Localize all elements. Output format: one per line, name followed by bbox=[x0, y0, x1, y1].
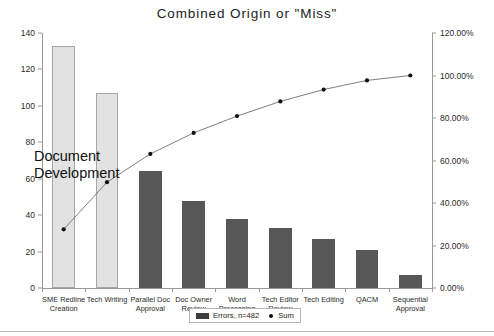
legend-item-sum: Sum bbox=[268, 311, 294, 320]
document-development-annotation: Document Development bbox=[34, 148, 119, 182]
x-axis-tick-mark bbox=[345, 288, 346, 292]
legend-label-sum: Sum bbox=[278, 311, 294, 320]
chart-legend: Errors, n=482 Sum bbox=[189, 308, 301, 323]
y-axis-right-tick-mark bbox=[432, 33, 436, 34]
y-axis-right-tick-mark bbox=[432, 203, 436, 204]
x-axis-line bbox=[42, 288, 433, 289]
data-point-marker bbox=[322, 87, 326, 91]
data-point-marker bbox=[62, 227, 66, 231]
annotation-line-2: Development bbox=[34, 165, 119, 182]
data-point-marker bbox=[192, 131, 196, 135]
y-axis-right-tick-mark bbox=[432, 118, 436, 119]
bar-swatch-icon bbox=[196, 313, 209, 319]
y-axis-right-tick-label: 20.00% bbox=[432, 241, 469, 251]
x-axis-tick-mark bbox=[172, 288, 173, 292]
y-axis-right-tick-label: 0.00% bbox=[432, 283, 464, 293]
x-axis-tick-mark bbox=[389, 288, 390, 292]
y-axis-right-tick-mark bbox=[432, 160, 436, 161]
bottom-divider bbox=[0, 331, 494, 332]
x-axis-tick-mark bbox=[432, 288, 433, 292]
y-axis-right-tick-label: 80.00% bbox=[432, 113, 469, 123]
y-axis-right-tick-mark bbox=[432, 245, 436, 246]
data-point-marker bbox=[235, 114, 239, 118]
x-axis-category-label: Sequential Approval bbox=[385, 295, 436, 313]
x-axis-tick-mark bbox=[129, 288, 130, 292]
data-point-marker bbox=[278, 99, 282, 103]
y-axis-right-tick-label: 100.00% bbox=[432, 71, 474, 81]
pareto-chart: Combined Origin or "Miss" 02040608010012… bbox=[0, 0, 494, 336]
data-point-marker bbox=[148, 152, 152, 156]
dot-marker-icon bbox=[269, 314, 273, 318]
x-axis-tick-mark bbox=[42, 288, 43, 292]
legend-item-errors: Errors, n=482 bbox=[196, 311, 259, 320]
x-axis-tick-mark bbox=[302, 288, 303, 292]
legend-label-errors: Errors, n=482 bbox=[213, 311, 259, 320]
data-point-marker bbox=[408, 73, 412, 77]
annotation-line-1: Document bbox=[34, 148, 119, 165]
y-axis-right-tick-label: 60.00% bbox=[432, 156, 469, 166]
x-axis-tick-mark bbox=[85, 288, 86, 292]
x-axis-tick-mark bbox=[215, 288, 216, 292]
y-axis-right-tick-label: 40.00% bbox=[432, 198, 469, 208]
y-axis-right-tick-mark bbox=[432, 75, 436, 76]
x-axis-tick-mark bbox=[259, 288, 260, 292]
data-point-marker bbox=[365, 78, 369, 82]
y-axis-right-tick-label: 120.00% bbox=[432, 28, 474, 38]
chart-title: Combined Origin or "Miss" bbox=[0, 6, 494, 21]
